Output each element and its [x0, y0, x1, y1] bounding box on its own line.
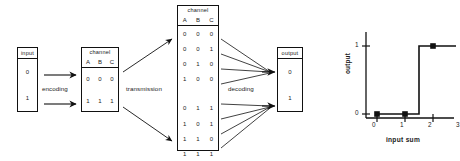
chart-x-tick-1: 1	[400, 121, 404, 128]
transmission-arrow-1	[123, 107, 172, 141]
chart-marker-1	[402, 111, 408, 117]
encoding-arrow-group	[44, 75, 76, 104]
chart-y-axis-label: output	[344, 41, 351, 87]
decoding-wire-100	[221, 73, 270, 84]
decoding-wire-101	[221, 107, 270, 119]
transmission-arrow-group	[123, 39, 172, 141]
output-step-chart: output input sum 1 0 0 1 2 3	[330, 8, 456, 158]
transmission-arrow-0	[123, 39, 172, 72]
chart-y-tick-1: 1	[355, 41, 359, 48]
chart-x-tick-2: 2	[428, 121, 432, 128]
chart-y-tick-0: 0	[355, 109, 359, 116]
decoding-wire-110	[221, 107, 270, 134]
chart-x-tick-0: 0	[372, 121, 376, 128]
chart-x-tick-3: 3	[456, 121, 460, 128]
decoding-arrow-group-zero	[221, 39, 275, 84]
chart-step-line	[377, 46, 456, 114]
chart-marker-0	[374, 111, 380, 117]
chart-x-axis-label: input sum	[350, 136, 456, 143]
diagram-canvas: input 0 1 channel A B C 0 0 0 1 1 1 chan…	[0, 0, 460, 161]
chart-marker-2	[430, 43, 436, 49]
decoding-arrow-group-one	[221, 104, 275, 148]
decoding-wire-000	[221, 39, 270, 72]
decoding-wire-111	[221, 108, 270, 148]
